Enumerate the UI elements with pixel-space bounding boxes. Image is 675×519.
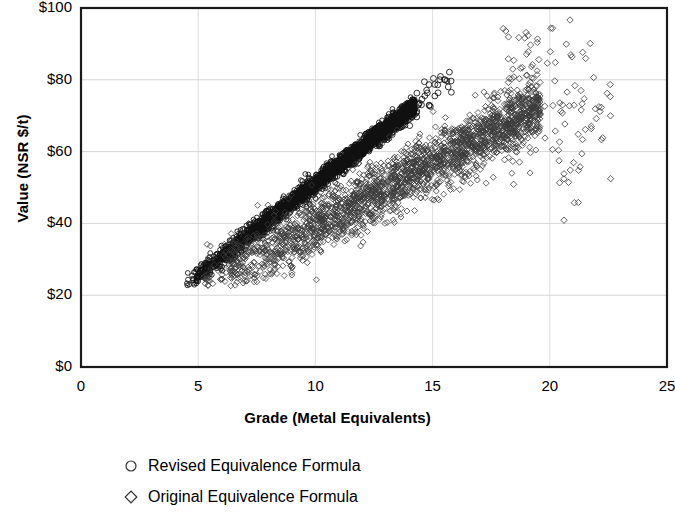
series-original-equivalence-points (201, 17, 614, 289)
y-tick-label: $80 (0, 70, 72, 87)
legend-item-original: Original Equivalence Formula (118, 481, 361, 512)
diamond-marker-icon (118, 490, 144, 504)
x-tick-label: 15 (403, 377, 463, 394)
legend-item-revised: Revised Equivalence Formula (118, 450, 361, 481)
y-tick-label: $60 (0, 142, 72, 159)
scatter-chart: Value (NSR $/t) Grade (Metal Equivalents… (0, 0, 675, 519)
legend-label-original: Original Equivalence Formula (148, 488, 358, 506)
y-tick-label: $40 (0, 213, 72, 230)
legend-label-revised: Revised Equivalence Formula (148, 457, 361, 475)
x-tick-label: 10 (285, 377, 345, 394)
circle-marker-icon (118, 459, 144, 473)
x-tick-label: 20 (520, 377, 580, 394)
plot-area (0, 0, 675, 519)
x-axis-title: Grade (Metal Equivalents) (0, 409, 675, 426)
y-tick-label: $0 (0, 357, 72, 374)
chart-legend: Revised Equivalence Formula Original Equ… (118, 450, 361, 512)
y-axis-title: Value (NSR $/t) (14, 59, 31, 279)
y-tick-label: $20 (0, 285, 72, 302)
y-tick-label: $100 (0, 0, 72, 15)
x-tick-label: 0 (51, 377, 111, 394)
x-tick-label: 25 (637, 377, 675, 394)
x-tick-label: 5 (168, 377, 228, 394)
